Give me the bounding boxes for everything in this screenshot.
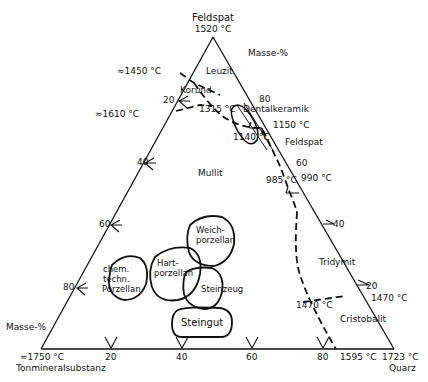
tick-left-20: 20 (163, 95, 174, 105)
tick-right-20: 20 (366, 281, 377, 291)
region-chem-1: chem. (103, 264, 129, 274)
region-steinzeug: Steinzeug (201, 284, 243, 294)
tick-right-40: 40 (333, 219, 344, 229)
region-chem-3: Porzellan (102, 284, 141, 294)
temp-1150: 1150 °C (273, 120, 310, 130)
axis-unit-top: Masse-% (248, 48, 288, 58)
vertex-quarz-temp: 1723 °C (382, 352, 419, 362)
temp-1470-left: 1470 °C (296, 300, 333, 310)
temp-1450: ≈1450 °C (117, 66, 161, 76)
temp-1595: 1595 °C (340, 352, 377, 362)
tick-bottom-80: 80 (317, 352, 328, 362)
temp-990: 990 °C (301, 173, 332, 183)
region-hart-1: Hart- (157, 258, 179, 268)
phase-cristobalit: Cristobalit (340, 314, 386, 324)
tick-bottom-40: 40 (176, 352, 187, 362)
tick-left-40: 40 (137, 157, 148, 167)
tick-left-60: 60 (99, 219, 110, 229)
region-hart-2: porzellan (154, 268, 193, 278)
tick-bottom-60: 60 (246, 352, 257, 362)
phase-mullit: Mullit (198, 168, 223, 178)
tick-right-60: 60 (296, 158, 307, 168)
vertex-ton-label: Tonmineralsubstanz (16, 363, 106, 373)
phase-korund: Korund (180, 85, 212, 95)
region-weich-1: Weich- (196, 225, 225, 235)
region-dentalkeramik: Dentalkeramik (243, 104, 309, 114)
tick-bottom-20: 20 (105, 352, 116, 362)
vertex-feldspat-temp: 1520 °C (188, 24, 238, 34)
temp-1315: 1315 °C (199, 104, 236, 114)
phase-tridymit: Tridymit (319, 257, 355, 267)
phase-feldspat: Feldspat (285, 137, 323, 147)
region-weich-2: porzellan (196, 235, 235, 245)
temp-1140: 1140 °C (233, 132, 270, 142)
bottom-ticks (105, 337, 329, 348)
axis-unit-bottom: Masse-% (6, 322, 46, 332)
region-steingut: Steingut (181, 318, 223, 328)
temp-1470-right: 1470 °C (371, 293, 408, 303)
vertex-quarz-label: Quarz (389, 363, 416, 373)
region-chem-2: techn. (103, 274, 130, 284)
temp-985: 985 °C (266, 175, 297, 185)
vertex-ton-temp: ≈1750 °C (20, 352, 64, 362)
temp-1610: ≈1610 °C (95, 109, 139, 119)
vertex-feldspat-label: Feldspat (188, 13, 238, 23)
phase-leuzit: Leuzit (206, 66, 233, 76)
tick-right-80: 80 (259, 94, 270, 104)
tick-left-80: 80 (63, 282, 74, 292)
